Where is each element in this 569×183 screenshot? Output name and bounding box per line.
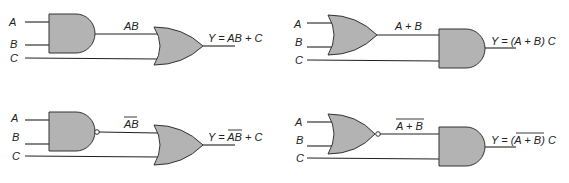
inversion-bubble — [95, 130, 100, 135]
or-gate — [328, 15, 377, 55]
or-gate — [154, 125, 203, 165]
input-a-label: A — [294, 116, 302, 128]
input-c-label: C — [10, 52, 18, 64]
input-a-label: A — [8, 16, 16, 28]
and-gate — [439, 29, 485, 68]
circuit-and-or: A B C AB Y = AB + C — [8, 14, 262, 65]
output-expression: Y = AB + C — [208, 32, 262, 44]
and-gate — [439, 127, 485, 166]
circuit-nor-and: A B C A + B Y = (A + B) C — [294, 114, 556, 166]
input-b-label: B — [10, 38, 17, 50]
input-b-label: B — [12, 131, 19, 143]
input-c-label: C — [296, 152, 304, 164]
circuit-nand-or: A B C AB Y = AB + C — [10, 112, 263, 165]
intermediate-label: A + B — [394, 20, 422, 32]
logic-diagram: A B C AB Y = AB + C A B C A + B Y = (A +… — [0, 0, 569, 183]
intermediate-label: AB — [123, 20, 139, 32]
input-a-label: A — [293, 18, 301, 30]
nor-gate — [328, 114, 375, 154]
and-gate — [49, 14, 95, 53]
input-b-label: B — [295, 36, 302, 48]
input-c-label: C — [295, 54, 303, 66]
output-expression: Y = (A + B) C — [491, 35, 556, 47]
intermediate-label: AB — [123, 118, 139, 130]
output-expression: Y = (A + B) C — [491, 134, 556, 146]
or-gate — [154, 27, 203, 65]
nand-gate — [49, 112, 95, 151]
input-c-label: C — [12, 150, 20, 162]
output-expression: Y = AB + C — [208, 131, 263, 143]
inversion-bubble — [376, 132, 381, 137]
intermediate-label: A + B — [395, 120, 423, 132]
input-b-label: B — [296, 134, 303, 146]
circuit-or-and: A B C A + B Y = (A + B) C — [293, 15, 556, 68]
input-a-label: A — [10, 112, 18, 124]
